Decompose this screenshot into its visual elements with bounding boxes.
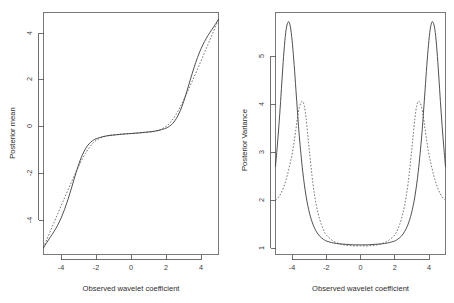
curves-group	[276, 22, 446, 246]
panel-posterior-mean: 4 2 0 -2 -4 Posterior mean -4 -2 0 2 4 O	[0, 0, 227, 303]
y-tick-label-3: 3	[257, 150, 266, 154]
y-tick-label-minus-2: -2	[25, 170, 34, 176]
x-axis-title: Observed wavelet coefficient	[83, 284, 181, 293]
x-tick-label-0: 0	[129, 263, 133, 272]
y-tick-label-1: 1	[257, 246, 266, 250]
x-tick-label-minus-2: -2	[323, 263, 329, 272]
x-tick-label-minus-4: -4	[289, 263, 295, 272]
x-tick-label-0: 0	[359, 263, 363, 272]
y-tick-label-4: 4	[25, 31, 34, 35]
figure-canvas: 4 2 0 -2 -4 Posterior mean -4 -2 0 2 4 O	[0, 0, 454, 303]
x-axis-group: -4 -2 0 2 4 Observed wavelet coefficient	[289, 255, 431, 294]
y-tick-label-0: 0	[25, 124, 34, 128]
y-tick-label-minus-4: -4	[25, 217, 34, 223]
y-axis-group: 4 2 0 -2 -4 Posterior mean	[8, 31, 44, 223]
curve-solid-variance	[276, 22, 446, 245]
y-tick-label-4: 4	[257, 102, 266, 106]
curve-dashed-variance	[276, 101, 446, 246]
x-tick-label-2: 2	[393, 263, 397, 272]
panel-posterior-variance: 5 4 3 2 1 Posterior Variance -4 -2 0 2 4	[227, 0, 454, 303]
y-tick-label-5: 5	[257, 54, 266, 58]
x-axis-title: Observed wavelet coefficient	[312, 284, 410, 293]
x-tick-label-minus-2: -2	[93, 263, 99, 272]
x-tick-label-4: 4	[427, 263, 431, 272]
x-axis-group: -4 -2 0 2 4 Observed wavelet coefficient	[58, 255, 203, 294]
y-tick-label-2: 2	[25, 77, 34, 81]
plot-frame	[276, 13, 446, 255]
posterior-mean-chart-svg: 4 2 0 -2 -4 Posterior mean -4 -2 0 2 4 O	[0, 0, 227, 303]
y-axis-group: 5 4 3 2 1 Posterior Variance	[240, 54, 276, 250]
curve-solid-rule	[44, 19, 219, 247]
y-axis-title: Posterior Variance	[240, 109, 249, 171]
curves-group	[44, 19, 219, 247]
x-tick-label-2: 2	[164, 263, 168, 272]
x-tick-label-minus-4: -4	[58, 263, 64, 272]
posterior-variance-chart-svg: 5 4 3 2 1 Posterior Variance -4 -2 0 2 4	[227, 0, 454, 303]
y-axis-title: Posterior mean	[8, 107, 17, 159]
x-tick-label-4: 4	[199, 263, 203, 272]
y-tick-label-2: 2	[257, 198, 266, 202]
